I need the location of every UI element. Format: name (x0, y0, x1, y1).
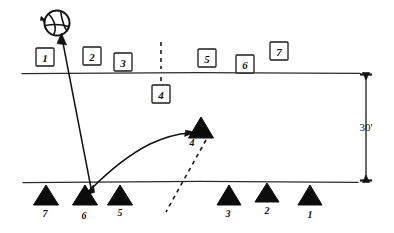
player-box-5-label: 5 (204, 53, 210, 65)
court-lines (22, 73, 360, 183)
player-triangle-1-label: 1 (308, 209, 313, 220)
player-triangle-3[interactable]: 3 (217, 185, 241, 219)
player-box-2[interactable]: 2 (83, 47, 101, 65)
player-box-3-label: 3 (119, 57, 126, 69)
player-box-5[interactable]: 5 (198, 49, 216, 67)
player-box-7[interactable]: 7 (270, 42, 288, 60)
ball-icon (40, 11, 69, 36)
player-triangle-4[interactable]: 4 (189, 117, 214, 148)
player-box-7-label: 7 (276, 46, 282, 58)
baseline (23, 181, 358, 182)
player-triangle-1[interactable]: 1 (298, 185, 322, 220)
player-triangle-4-label: 4 (189, 137, 195, 148)
player-triangle-3-label: 3 (225, 208, 231, 219)
triangle-players: 7 6 5 4 3 2 1 (34, 117, 323, 221)
player-triangle-5-label: 5 (118, 207, 123, 218)
movement-arrow (85, 130, 196, 195)
diagram-canvas: 1 2 3 4 5 6 7 (0, 0, 394, 233)
net-line (22, 73, 360, 74)
player-4-path (166, 140, 206, 212)
player-box-6-label: 6 (242, 59, 248, 71)
player-box-2-label: 2 (88, 51, 95, 63)
player-triangle-7[interactable]: 7 (34, 185, 59, 219)
player-triangle-6-label: 6 (82, 210, 87, 221)
player-box-4-label: 4 (157, 89, 164, 101)
player-box-6[interactable]: 6 (236, 55, 254, 73)
player-box-3[interactable]: 3 (114, 53, 132, 71)
player-triangle-2[interactable]: 2 (255, 183, 279, 216)
player-box-1-label: 1 (42, 52, 48, 64)
player-triangle-5[interactable]: 5 (108, 185, 133, 218)
player-triangle-7-label: 7 (43, 208, 49, 219)
player-box-1[interactable]: 1 (36, 48, 54, 66)
dimension-label: 30' (360, 121, 373, 133)
player-triangle-2-label: 2 (264, 205, 270, 216)
player-box-4[interactable]: 4 (152, 85, 170, 103)
dimension-marker-30ft: 30' (360, 73, 373, 183)
